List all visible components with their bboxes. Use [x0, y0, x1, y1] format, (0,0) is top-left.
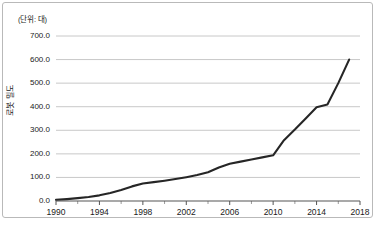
y-tick-label-100: 100.0 [12, 172, 50, 181]
x-tick-label-1998: 1998 [123, 207, 163, 217]
x-tick-label-2010: 2010 [253, 207, 293, 217]
series-line-robot-density [56, 60, 349, 200]
x-tick-label-2006: 2006 [210, 207, 250, 217]
y-tick-label-500: 500.0 [12, 78, 50, 87]
y-tick-label-0: 0.0 [12, 196, 50, 205]
gridlines-group [56, 36, 360, 177]
chart-figure: (단위: 대) 로봇 밀도 0.0100.0200.0300.0400.0500… [0, 0, 383, 244]
x-tick-marks-group [56, 201, 360, 205]
y-tick-label-300: 300.0 [12, 125, 50, 134]
y-tick-label-200: 200.0 [12, 149, 50, 158]
y-tick-label-600: 600.0 [12, 55, 50, 64]
x-tick-label-1990: 1990 [36, 207, 76, 217]
x-tick-label-2018: 2018 [340, 207, 380, 217]
x-tick-label-2014: 2014 [297, 207, 337, 217]
y-tick-label-700: 700.0 [12, 31, 50, 40]
x-tick-label-2002: 2002 [166, 207, 206, 217]
x-tick-label-1994: 1994 [79, 207, 119, 217]
y-tick-label-400: 400.0 [12, 102, 50, 111]
plot-container: (단위: 대) 로봇 밀도 0.0100.0200.0300.0400.0500… [0, 0, 383, 244]
